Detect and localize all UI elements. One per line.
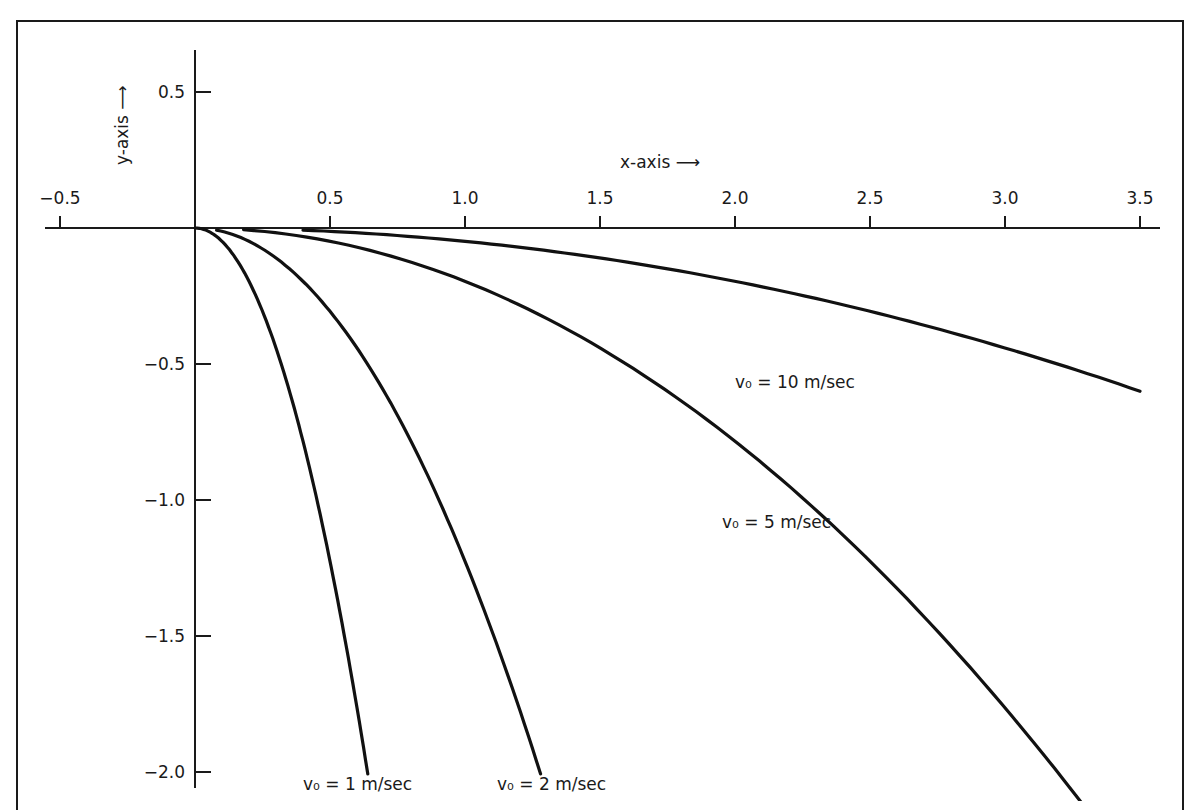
x-axis-title: x-axis ⟶: [620, 152, 700, 172]
series-annotation: v₀ = 2 m/sec: [497, 774, 606, 794]
y-tick-label: −1.0: [144, 490, 185, 510]
x-tick-label: 3.0: [991, 188, 1018, 208]
y-tick-label: −0.5: [144, 354, 185, 374]
x-tick-label: 3.5: [1126, 188, 1153, 208]
y-tick-label: −2.0: [144, 762, 185, 782]
series-annotation: v₀ = 10 m/sec: [735, 372, 855, 392]
axes: −0.50.51.01.52.02.53.03.50.5−0.5−1.0−1.5…: [39, 50, 1160, 788]
x-tick-label: 1.0: [451, 188, 478, 208]
series-annotation: v₀ = 1 m/sec: [303, 774, 412, 794]
x-tick-label: 0.5: [316, 188, 343, 208]
x-tick-label: −0.5: [39, 188, 80, 208]
y-axis-title: y-axis ⟶: [112, 85, 132, 165]
trajectory-v0-1: [195, 228, 368, 774]
trajectory-curves: [195, 228, 1140, 801]
trajectory-v0-2: [217, 230, 541, 774]
x-tick-label: 1.5: [586, 188, 613, 208]
x-tick-label: 2.5: [856, 188, 883, 208]
trajectory-v0-5: [244, 230, 1086, 801]
y-tick-label: −1.5: [144, 626, 185, 646]
series-annotation: v₀ = 5 m/sec: [722, 512, 831, 532]
y-tick-label: 0.5: [158, 82, 185, 102]
x-tick-label: 2.0: [721, 188, 748, 208]
trajectory-v0-10: [303, 230, 1140, 391]
